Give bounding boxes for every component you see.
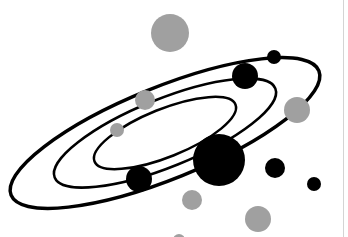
black-body-lower-left-icon [126, 166, 152, 192]
gray-body-small-icon [110, 123, 124, 137]
gray-body-top-icon [151, 14, 189, 52]
gray-body-right-icon [284, 97, 310, 123]
gray-body-lower-icon [182, 190, 202, 210]
black-body-top-small-icon [267, 50, 281, 64]
gray-body-bottom-partial-icon [173, 234, 185, 237]
black-body-right-icon [265, 158, 285, 178]
gray-body-bottom-right-icon [245, 206, 271, 232]
outer-orbit [0, 28, 336, 237]
orbit-illustration [0, 0, 348, 237]
black-body-far-right-icon [307, 177, 321, 191]
orbit-diagram-graphic [0, 0, 348, 237]
bodies-group [110, 14, 321, 237]
orbits-group [0, 28, 336, 237]
page-edge-line [343, 0, 344, 237]
black-body-large-icon [193, 134, 245, 186]
gray-body-mid-icon [135, 90, 155, 110]
black-body-upper-icon [232, 63, 258, 89]
